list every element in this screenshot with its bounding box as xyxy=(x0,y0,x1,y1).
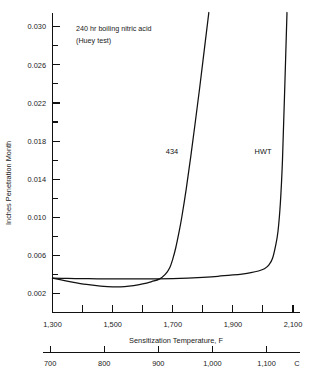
c-tick-label: 1,100 xyxy=(257,359,276,368)
x-tick-label: 1,700 xyxy=(164,320,183,329)
y-tick-label: 0.022 xyxy=(28,99,47,108)
c-tick-label: 1,000 xyxy=(203,359,222,368)
series-label-hwt: HWT xyxy=(255,147,272,156)
y-tick-label: 0.002 xyxy=(28,289,47,298)
y-tick-label: 0.018 xyxy=(28,137,47,146)
y-tick-label: 0.014 xyxy=(28,175,47,184)
chart-figure: 0.0020.0060.0100.0140.0180.0220.0260.030… xyxy=(0,0,312,374)
c-tick-label: 700 xyxy=(44,359,56,368)
x-tick-label: 1,900 xyxy=(224,320,243,329)
c-axis-unit-label: C xyxy=(294,359,300,368)
x-tick-label: 1,300 xyxy=(43,320,62,329)
y-tick-label: 0.030 xyxy=(28,22,47,31)
chart-background xyxy=(0,0,312,374)
y-tick-label: 0.026 xyxy=(28,61,47,70)
y-axis-title: Inches Penetration Month xyxy=(4,141,13,225)
c-tick-label: 900 xyxy=(152,359,164,368)
y-tick-label: 0.010 xyxy=(28,213,47,222)
series-label-434: 434 xyxy=(166,147,178,156)
annotation-line-1: 240 hr boiling nitric acid xyxy=(76,24,152,33)
annotation-line-2: (Huey test) xyxy=(76,36,111,45)
x-axis-title: Sensitization Temperature, F xyxy=(129,336,223,345)
c-tick-label: 800 xyxy=(98,359,110,368)
x-tick-label: 1,500 xyxy=(103,320,122,329)
x-tick-label: 2,100 xyxy=(284,320,303,329)
chart-svg: 0.0020.0060.0100.0140.0180.0220.0260.030… xyxy=(0,0,312,374)
y-tick-label: 0.006 xyxy=(28,251,47,260)
